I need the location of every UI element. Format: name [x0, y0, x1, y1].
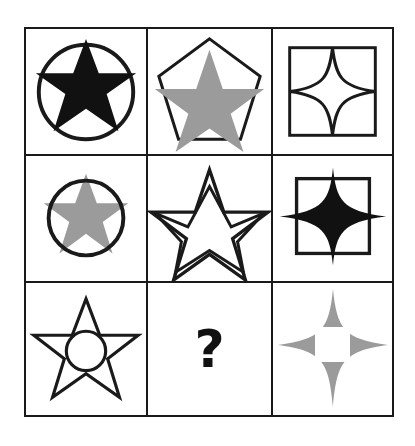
white-six-point-star-with-circle-hole-figure	[26, 283, 146, 415]
gray-six-point-star-with-circle-figure	[26, 156, 146, 281]
matrix-cell-9[interactable]	[273, 283, 392, 415]
matrix-cell-6[interactable]	[273, 156, 392, 283]
black-four-point-star-with-square-figure	[273, 156, 392, 281]
white-double-five-point-star-figure	[148, 156, 271, 281]
matrix-cell-2[interactable]	[148, 29, 273, 156]
matrix-cell-3[interactable]	[273, 29, 392, 156]
puzzle-page: ?	[0, 0, 415, 446]
gray-five-point-star-in-pentagon-figure	[148, 29, 271, 154]
matrix-cell-7[interactable]	[26, 283, 148, 415]
matrix-cell-5[interactable]	[148, 156, 273, 283]
matrix-cell-8[interactable]: ?	[148, 283, 273, 415]
gray-four-point-star-with-square-hole-figure	[273, 283, 392, 415]
black-six-point-star-in-circle-figure	[26, 29, 146, 154]
matrix-cell-4[interactable]	[26, 156, 148, 283]
question-mark: ?	[148, 283, 271, 415]
matrix-grid: ?	[24, 27, 394, 417]
white-four-point-star-in-square-figure	[273, 29, 392, 154]
matrix-cell-1[interactable]	[26, 29, 148, 156]
